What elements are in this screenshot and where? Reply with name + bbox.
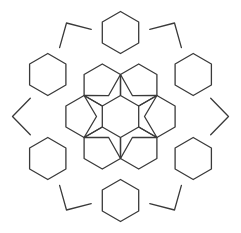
outer-star-point	[60, 185, 92, 210]
outer-star-point	[60, 23, 92, 48]
outer-star-point	[13, 98, 31, 135]
hexagon-star-pattern	[0, 0, 241, 233]
pattern-lines	[13, 12, 229, 222]
outer-hexagon	[175, 54, 211, 96]
outer-hexagon	[175, 138, 211, 180]
outer-hexagon	[102, 12, 138, 54]
outer-star-point	[211, 98, 229, 135]
outer-hexagon	[102, 180, 138, 222]
outer-star-point	[150, 23, 182, 48]
outer-star-point	[150, 185, 182, 210]
outer-hexagon	[30, 138, 66, 180]
outer-hexagon	[30, 54, 66, 96]
